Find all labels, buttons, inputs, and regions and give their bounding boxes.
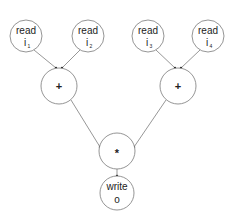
node-label: read: [138, 25, 158, 36]
node-var: i: [206, 37, 208, 48]
node-write-o: write o: [100, 176, 134, 210]
node-label: read: [78, 25, 98, 36]
edge-r3-add2: [156, 50, 175, 68]
node-read-i1: read i 1: [10, 20, 42, 52]
node-subscript: 4: [210, 43, 213, 49]
edge-r1-add1: [34, 50, 56, 68]
edge-add1-mul: [71, 100, 100, 147]
node-var: i: [146, 37, 148, 48]
node-subscript: 1: [28, 43, 31, 49]
node-var: o: [114, 194, 120, 205]
plus-operator: +: [56, 80, 62, 92]
node-label: write: [105, 181, 128, 192]
edge-r2-add1: [62, 50, 80, 68]
edge-add2-mul: [134, 100, 166, 147]
edge-r4-add2: [181, 50, 200, 68]
node-read-i4: read i 4: [192, 20, 224, 52]
node-subscript: 2: [90, 43, 93, 49]
node-read-i2: read i 2: [72, 20, 104, 52]
node-add-left: +: [41, 68, 77, 104]
node-var: i: [24, 37, 26, 48]
multiply-operator: *: [115, 147, 120, 159]
plus-operator: +: [175, 80, 181, 92]
node-label: read: [198, 25, 218, 36]
node-label: read: [16, 25, 36, 36]
node-read-i3: read i 3: [132, 20, 164, 52]
node-var: i: [86, 37, 88, 48]
dataflow-diagram: read i 1 read i 2 read i 3 read i 4 + + …: [0, 0, 235, 215]
node-add-right: +: [160, 68, 196, 104]
node-multiply: *: [99, 133, 135, 169]
node-subscript: 3: [150, 43, 153, 49]
